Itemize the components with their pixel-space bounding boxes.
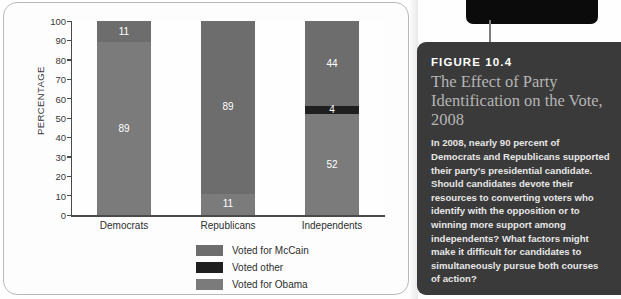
x-tick-label-democrats: Democrats bbox=[69, 220, 179, 231]
legend-label: Voted for Obama bbox=[232, 279, 308, 290]
legend-item: Voted for Obama bbox=[196, 277, 309, 292]
chart-legend: Voted for McCainVoted otherVoted for Oba… bbox=[196, 243, 309, 294]
y-tick-label: 50 bbox=[6, 113, 66, 124]
figure-caption-panel: FIGURE 10.4 The Effect of Party Identifi… bbox=[417, 42, 621, 295]
bar-segment: 11 bbox=[201, 194, 255, 215]
figure-body-text: In 2008, nearly 90 percent of Democrats … bbox=[431, 136, 610, 286]
figure-number: FIGURE 10.4 bbox=[431, 56, 610, 68]
y-tick-label: 80 bbox=[6, 54, 66, 65]
y-tick-label: 90 bbox=[6, 35, 66, 46]
bar-segment-value: 52 bbox=[326, 160, 337, 170]
bar-segment-value: 89 bbox=[118, 124, 129, 134]
bar-segment: 4 bbox=[305, 106, 359, 114]
chart-panel: PERCENTAGE 1009080706050403020100 118989… bbox=[3, 2, 409, 295]
y-tick-label: 70 bbox=[6, 74, 66, 85]
y-tick-label: 10 bbox=[6, 190, 66, 201]
legend-swatch bbox=[196, 279, 223, 290]
bar-segment: 11 bbox=[97, 21, 151, 42]
bar-segment-value: 89 bbox=[222, 102, 233, 112]
y-tick-label: 60 bbox=[6, 93, 66, 104]
callout-connector-line bbox=[489, 20, 491, 44]
bar-segment: 89 bbox=[201, 21, 255, 194]
bar-segment-value: 11 bbox=[223, 199, 233, 209]
legend-label: Voted for McCain bbox=[232, 245, 309, 256]
legend-swatch bbox=[196, 262, 223, 273]
bar-segment: 44 bbox=[305, 21, 359, 106]
plot-wrapper: PERCENTAGE 1009080706050403020100 118989… bbox=[4, 3, 408, 294]
bar-segment-value: 11 bbox=[119, 27, 129, 37]
figure-title: The Effect of Party Identification on th… bbox=[431, 72, 610, 129]
legend-label: Voted other bbox=[232, 262, 283, 273]
legend-swatch bbox=[196, 245, 223, 256]
bar-republicans: 8911 bbox=[201, 21, 255, 215]
question-callout: influence voters decisions? bbox=[466, 0, 598, 24]
figure-container: PERCENTAGE 1009080706050403020100 118989… bbox=[0, 0, 621, 299]
question-callout-text: decisions? bbox=[466, 0, 598, 2]
y-axis-ticks: 1009080706050403020100 bbox=[4, 3, 66, 294]
y-tick-label: 30 bbox=[6, 151, 66, 162]
x-tick-label-republicans: Republicans bbox=[173, 220, 283, 231]
y-tick-label: 40 bbox=[6, 132, 66, 143]
y-tick-label: 0 bbox=[6, 210, 66, 221]
plot-area: 1189891144452 bbox=[72, 21, 384, 215]
bar-independents: 44452 bbox=[305, 21, 359, 215]
bar-democrats: 1189 bbox=[97, 21, 151, 215]
x-axis-line bbox=[71, 215, 385, 217]
legend-item: Voted other bbox=[196, 260, 309, 275]
bar-segment-value: 44 bbox=[326, 59, 337, 69]
bar-segment: 52 bbox=[305, 114, 359, 215]
y-tick-label: 100 bbox=[6, 16, 66, 27]
legend-item: Voted for McCain bbox=[196, 243, 309, 258]
bar-segment: 89 bbox=[97, 42, 151, 215]
y-tick-label: 20 bbox=[6, 171, 66, 182]
x-tick-label-independents: Independents bbox=[277, 220, 387, 231]
